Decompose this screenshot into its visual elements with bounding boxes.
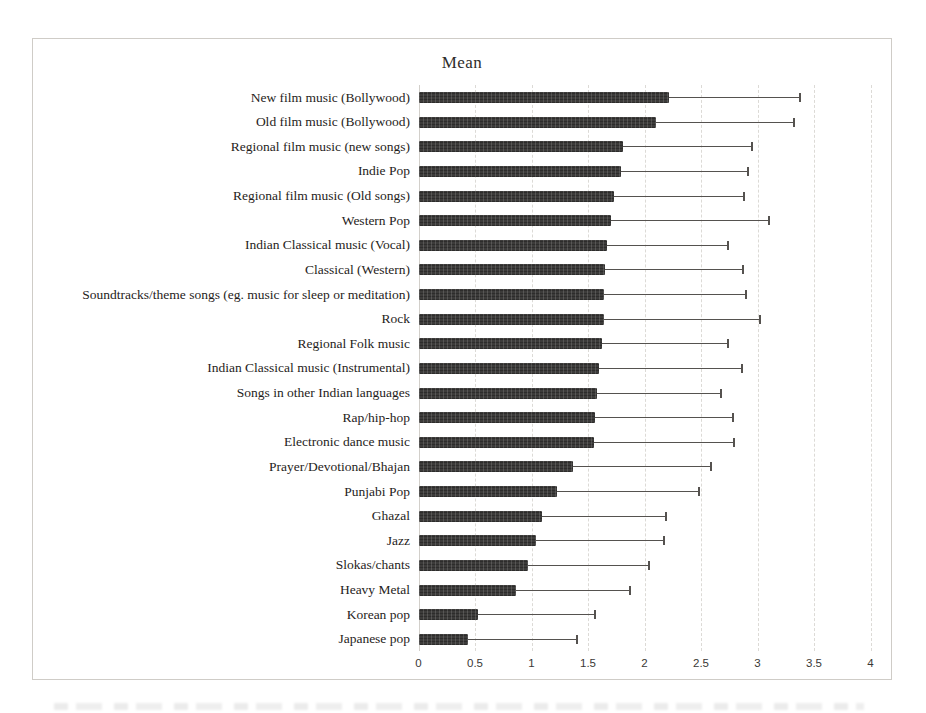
bar: [419, 166, 621, 177]
error-bar: [594, 442, 734, 443]
error-cap: [751, 142, 753, 151]
error-bar: [597, 393, 721, 394]
error-bar: [478, 614, 594, 615]
error-bar: [573, 466, 711, 467]
error-bar: [468, 639, 576, 640]
error-cap: [727, 241, 729, 250]
category-label: Old film music (Bollywood): [33, 113, 410, 131]
error-cap: [741, 364, 743, 373]
error-cap: [733, 438, 735, 447]
bar: [419, 240, 608, 251]
category-label: Punjabi Pop: [33, 483, 410, 501]
category-label: Heavy Metal: [33, 581, 410, 599]
bar: [419, 363, 600, 374]
bar: [419, 634, 469, 645]
category-label: Korean pop: [33, 606, 410, 624]
x-tick-label: 1.5: [571, 657, 605, 669]
category-label: New film music (Bollywood): [33, 89, 410, 107]
category-label: Regional film music (Old songs): [33, 187, 410, 205]
error-bar: [516, 590, 630, 591]
error-cap: [663, 536, 665, 545]
category-label: Rock: [33, 310, 410, 328]
bar: [419, 92, 670, 103]
error-cap: [799, 93, 801, 102]
chart-frame: Mean 00.511.522.533.54New film music (Bo…: [32, 38, 892, 680]
error-cap: [698, 487, 700, 496]
error-cap: [594, 610, 596, 619]
error-cap: [665, 512, 667, 521]
x-tick-label: 2.5: [684, 657, 718, 669]
error-cap: [629, 586, 631, 595]
category-label: Indian Classical music (Vocal): [33, 236, 410, 254]
error-cap: [793, 118, 795, 127]
error-bar: [542, 516, 666, 517]
gridline: [814, 85, 815, 651]
x-tick-label: 4: [854, 657, 888, 669]
category-label: Regional Folk music: [33, 335, 410, 353]
error-cap: [720, 389, 722, 398]
category-label: Jazz: [33, 532, 410, 550]
error-bar: [604, 319, 760, 320]
error-cap: [648, 561, 650, 570]
category-label: Indie Pop: [33, 162, 410, 180]
category-label: Japanese pop: [33, 630, 410, 648]
bar: [419, 314, 604, 325]
bar: [419, 511, 542, 522]
bar: [419, 117, 656, 128]
bar: [419, 289, 604, 300]
error-cap: [747, 167, 749, 176]
error-bar: [604, 294, 746, 295]
x-tick-label: 3: [741, 657, 775, 669]
bar: [419, 609, 479, 620]
bar-chart-plot-area: 00.511.522.533.54New film music (Bollywo…: [33, 39, 893, 681]
bar: [419, 388, 598, 399]
x-tick-label: 2: [628, 657, 662, 669]
x-tick-label: 1: [515, 657, 549, 669]
error-bar: [669, 97, 800, 98]
error-cap: [759, 315, 761, 324]
error-bar: [623, 146, 752, 147]
error-cap: [768, 216, 770, 225]
bar: [419, 264, 605, 275]
x-tick-label: 3.5: [797, 657, 831, 669]
bar: [419, 535, 537, 546]
error-bar: [605, 269, 743, 270]
scanned-page: Mean 00.511.522.533.54New film music (Bo…: [0, 0, 926, 713]
category-label: Prayer/Devotional/Bhajan: [33, 458, 410, 476]
error-bar: [595, 417, 733, 418]
error-bar: [599, 368, 741, 369]
error-cap: [710, 462, 712, 471]
bar: [419, 215, 611, 226]
error-cap: [743, 192, 745, 201]
bar: [419, 141, 624, 152]
category-label: Soundtracks/theme songs (eg. music for s…: [33, 286, 410, 304]
bar: [419, 412, 595, 423]
error-bar: [621, 171, 749, 172]
error-bar: [656, 122, 794, 123]
category-label: Rap/hip-hop: [33, 409, 410, 427]
error-bar: [611, 220, 769, 221]
error-bar: [607, 245, 728, 246]
error-bar: [536, 540, 664, 541]
error-bar: [557, 491, 698, 492]
bar: [419, 437, 594, 448]
cropped-caption-fragment: [54, 703, 864, 710]
category-label: Regional film music (new songs): [33, 138, 410, 156]
category-label: Electronic dance music: [33, 433, 410, 451]
bar: [419, 191, 614, 202]
category-label: Indian Classical music (Instrumental): [33, 359, 410, 377]
bar: [419, 461, 574, 472]
error-bar: [614, 196, 744, 197]
bar: [419, 486, 558, 497]
error-cap: [732, 413, 734, 422]
category-label: Western Pop: [33, 212, 410, 230]
bar: [419, 560, 529, 571]
bar: [419, 585, 516, 596]
bar: [419, 338, 602, 349]
error-cap: [727, 339, 729, 348]
category-label: Classical (Western): [33, 261, 410, 279]
error-cap: [742, 265, 744, 274]
gridline: [871, 85, 872, 651]
category-label: Slokas/chants: [33, 556, 410, 574]
x-tick-label: 0: [402, 657, 436, 669]
